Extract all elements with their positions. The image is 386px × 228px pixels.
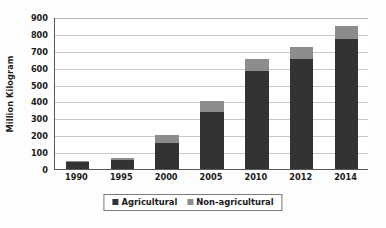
y-axis-tick-100: 100 (31, 148, 48, 158)
y-axis-tick-600: 600 (31, 64, 48, 74)
x-axis-tick-1995: 1995 (110, 172, 133, 182)
y-axis-tick-200: 200 (31, 131, 48, 141)
y-axis-tick-400: 400 (31, 97, 48, 107)
bar-segment-2014-agricultural (335, 39, 358, 169)
bar-segment-2010-agricultural (245, 71, 268, 169)
bar-segment-1995-agricultural (111, 160, 134, 169)
bar-group-2005 (200, 18, 223, 169)
bar-segment-2012-non-agricultural (290, 47, 313, 59)
bar-segment-2014-non-agricultural (335, 26, 358, 39)
bar-segment-2005-agricultural (200, 112, 223, 169)
y-axis-tick-300: 300 (31, 114, 48, 124)
bar-segment-2000-agricultural (155, 143, 178, 169)
plot-area (54, 18, 368, 170)
legend-item-non-agricultural: Non-agricultural (187, 197, 273, 207)
legend-label-non-agricultural: Non-agricultural (196, 197, 273, 207)
x-axis-tick-labels: 1990199520002005201020122014 (54, 172, 368, 186)
bar-segment-2000-non-agricultural (155, 135, 178, 143)
x-axis-tick-2000: 2000 (155, 172, 178, 182)
y-axis-tick-500: 500 (31, 81, 48, 91)
x-axis-tick-1990: 1990 (65, 172, 88, 182)
x-axis-tick-2010: 2010 (244, 172, 267, 182)
bar-segment-1995-non-agricultural (111, 158, 134, 159)
y-axis-tick-labels: 0100200300400500600700800900 (16, 18, 51, 170)
bar-segment-2010-non-agricultural (245, 59, 268, 71)
bar-series-container (55, 18, 368, 169)
bar-group-1990 (66, 18, 89, 169)
legend-label-agricultural: Agricultural (121, 197, 177, 207)
bar-group-2014 (335, 18, 358, 169)
y-axis-tick-900: 900 (31, 13, 48, 23)
bar-segment-2012-agricultural (290, 59, 313, 169)
chart-figure: Million Kilogram 01002003004005006007008… (0, 0, 386, 228)
legend-item-agricultural: Agricultural (112, 197, 177, 207)
legend-swatch-agricultural (112, 199, 118, 205)
bar-segment-1990-non-agricultural (66, 161, 89, 162)
bar-segment-1990-agricultural (66, 162, 89, 169)
y-axis-tick-800: 800 (31, 30, 48, 40)
bar-group-2010 (245, 18, 268, 169)
chart-legend: Agricultural Non-agricultural (103, 194, 282, 211)
y-axis-tick-0: 0 (42, 165, 48, 175)
x-axis-tick-2012: 2012 (289, 172, 312, 182)
bar-segment-2005-non-agricultural (200, 101, 223, 112)
bar-group-2000 (155, 18, 178, 169)
x-axis-tick-2014: 2014 (334, 172, 357, 182)
bar-group-1995 (111, 18, 134, 169)
x-axis-tick-2005: 2005 (200, 172, 223, 182)
y-axis-title-text: Million Kilogram (5, 56, 15, 133)
legend-swatch-non-agricultural (187, 199, 193, 205)
bar-group-2012 (290, 18, 313, 169)
y-axis-tick-700: 700 (31, 47, 48, 57)
